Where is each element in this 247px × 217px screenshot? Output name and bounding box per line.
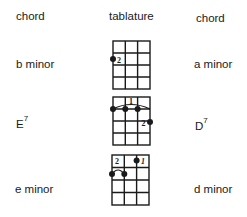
finger-dot — [109, 171, 115, 177]
header-tablature: tablature — [109, 10, 154, 22]
tablature-b-minor: 2 — [108, 38, 156, 94]
finger-number: 2 — [142, 119, 146, 128]
chord-label-e7: E7 — [16, 118, 28, 130]
finger-dot — [121, 171, 127, 177]
finger-number: 1 — [129, 97, 133, 106]
chord-name: E — [16, 118, 24, 130]
finger-dot — [110, 56, 116, 62]
chord-label-d7: D7 — [195, 120, 208, 132]
tablature-e7: 1 2 — [108, 94, 156, 150]
finger-dot — [122, 106, 128, 112]
tablature-e-minor: 2 1 — [107, 152, 155, 210]
header-chord-right: chord — [196, 12, 225, 24]
finger-dot — [110, 106, 116, 112]
chord-superscript: 7 — [203, 116, 207, 125]
finger-number: 2 — [115, 157, 119, 166]
chord-label-e-minor: e minor — [15, 183, 53, 195]
finger-number: 2 — [117, 56, 121, 65]
finger-dot — [134, 158, 140, 164]
chord-superscript: 7 — [24, 114, 28, 123]
finger-dot — [135, 106, 141, 112]
chord-label-b-minor: b minor — [16, 58, 54, 70]
chord-label-a-minor: a minor — [194, 58, 232, 70]
header-chord-left: chord — [16, 10, 45, 22]
finger-dot — [147, 119, 153, 125]
finger-number: 1 — [141, 157, 145, 166]
chord-label-d-minor: d minor — [194, 183, 232, 195]
